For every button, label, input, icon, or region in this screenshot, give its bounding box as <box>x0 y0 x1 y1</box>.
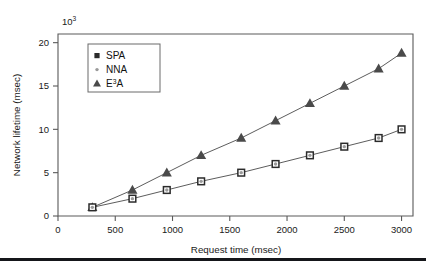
chart-background <box>0 0 426 271</box>
x-axis-title: Request time (msec) <box>191 244 281 255</box>
x-tick-label: 2000 <box>276 224 297 235</box>
x-tick-label: 0 <box>55 224 60 235</box>
marker-square <box>94 53 99 58</box>
x-tick-label: 2500 <box>334 224 355 235</box>
x-tick-label: 500 <box>107 224 123 235</box>
x-tick-label: 1500 <box>219 224 240 235</box>
legend-label-nna: NNA <box>106 64 127 75</box>
legend: SPANNAE3A <box>88 44 160 92</box>
y-tick-label: 20 <box>38 37 49 48</box>
y-tick-label: 5 <box>44 167 49 178</box>
y-tick-label: 10 <box>38 124 49 135</box>
chart-figure: 050010001500200025003000 05101520 103 SP… <box>0 0 426 271</box>
bottom-divider-rule <box>0 258 426 261</box>
legend-items: SPANNAE3A <box>93 50 127 89</box>
x-tick-label: 3000 <box>391 224 412 235</box>
legend-label-spa: SPA <box>106 50 126 61</box>
y-tick-label: 15 <box>38 80 49 91</box>
y-tick-label: 0 <box>44 210 49 221</box>
network-lifetime-line-chart: 050010001500200025003000 05101520 103 SP… <box>0 0 426 271</box>
y-axis-title: Network lifetime (msec) <box>11 74 22 176</box>
marker-circle <box>95 68 98 71</box>
x-tick-label: 1000 <box>162 224 183 235</box>
